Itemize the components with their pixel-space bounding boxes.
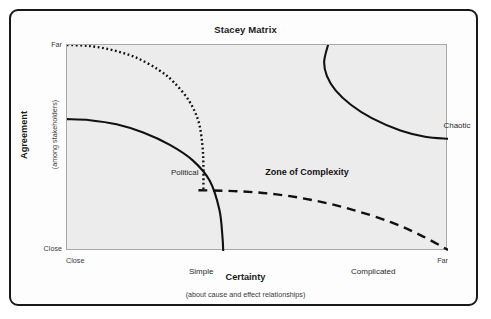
x-axis-tick-far: Far xyxy=(424,256,448,265)
region-label-simple: Simple xyxy=(189,267,213,276)
boundary-curve xyxy=(198,190,448,250)
y-axis-subtitle: (among stakeholders) xyxy=(50,75,59,195)
x-axis-title: Certainty xyxy=(0,272,491,282)
region-label-chaotic: Chaotic xyxy=(443,121,470,130)
boundary-curve xyxy=(67,119,223,251)
page-title: Stacey Matrix xyxy=(0,24,491,35)
x-axis-tick-close: Close xyxy=(66,256,84,265)
stacey-matrix-figure: Stacey Matrix Agreement (among stakehold… xyxy=(0,0,491,319)
y-axis-tick-far: Far xyxy=(36,40,62,49)
region-label-complicated: Complicated xyxy=(351,267,395,276)
x-axis-subtitle: (about cause and effect relationships) xyxy=(0,290,491,299)
plot-area: Political Zone of Complexity Chaotic Sim… xyxy=(66,44,447,250)
region-label-zone-of-complexity: Zone of Complexity xyxy=(265,167,349,177)
y-axis-tick-close: Close xyxy=(30,244,62,253)
boundary-curve xyxy=(324,45,448,139)
boundary-curves-svg xyxy=(67,45,448,251)
region-label-political: Political xyxy=(171,168,199,177)
y-axis-title: Agreement xyxy=(19,85,29,185)
